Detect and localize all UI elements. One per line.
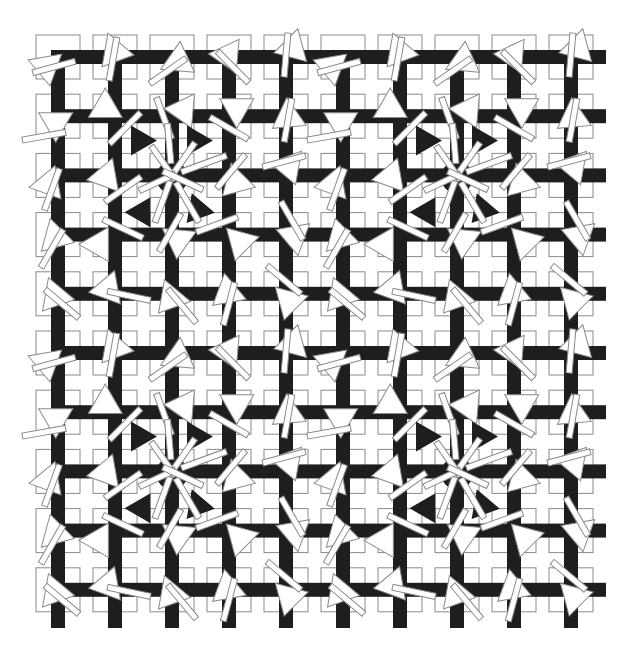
geometric-pattern-artwork [0,0,634,657]
pattern-svg [0,0,634,657]
